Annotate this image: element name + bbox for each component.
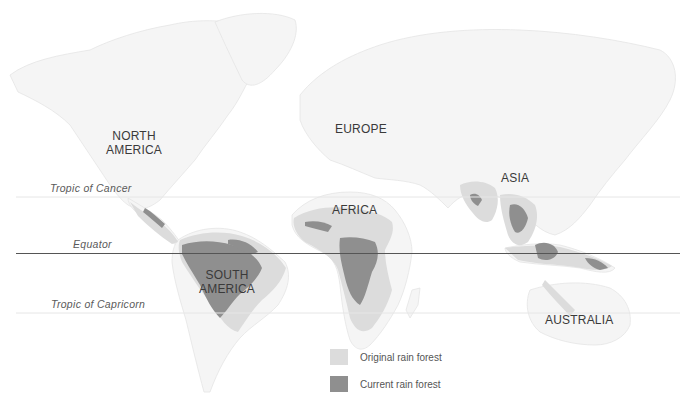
south-america-line2: AMERICA: [199, 282, 255, 296]
current-rain-forest-swatch: [330, 376, 348, 392]
south-america-line1: SOUTH: [199, 268, 255, 282]
label-tropic-of-cancer: Tropic of Cancer: [50, 182, 132, 194]
label-asia: ASIA: [501, 171, 529, 185]
label-equator: Equator: [73, 238, 112, 250]
label-australia: AUSTRALIA: [545, 313, 614, 327]
legend-label-original: Original rain forest: [360, 352, 442, 363]
label-tropic-of-capricorn: Tropic of Capricorn: [51, 298, 145, 310]
north-america-line2: AMERICA: [106, 143, 162, 157]
label-south-america: SOUTH AMERICA: [199, 268, 255, 296]
label-europe: EUROPE: [335, 122, 387, 136]
legend-item-current: Current rain forest: [330, 376, 441, 392]
north-america-line1: NORTH: [106, 129, 162, 143]
legend-label-current: Current rain forest: [360, 379, 441, 390]
label-africa: AFRICA: [332, 203, 377, 217]
original-rain-forest-swatch: [330, 349, 348, 365]
legend-item-original: Original rain forest: [330, 349, 442, 365]
world-rainforest-map: [0, 0, 684, 402]
label-north-america: NORTH AMERICA: [106, 129, 162, 157]
